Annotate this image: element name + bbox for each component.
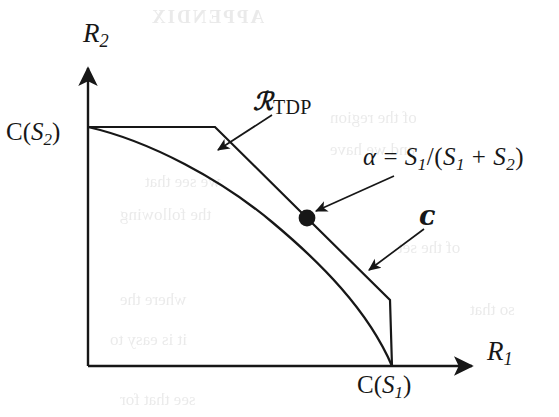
region-label-rtdp: ℛTDP: [253, 87, 312, 119]
x-axis-label-sub: 1: [504, 349, 513, 369]
region-boundary-rtdp: [88, 127, 392, 366]
tangency-point-marker: [299, 210, 316, 227]
figure-canvas: [0, 0, 559, 417]
alpha-term2-sub: 2: [506, 155, 515, 174]
arrow-to-curve-c: [369, 229, 424, 270]
region-label-subscript: TDP: [273, 96, 312, 118]
alpha-symbol: α: [363, 143, 377, 170]
c-s2-prefix: C(: [6, 118, 31, 145]
arrow-to-rtdp: [218, 115, 272, 150]
alpha-term1-sub: 1: [456, 155, 465, 174]
capacity-curve-c: [88, 127, 392, 366]
x-axis-label: R1: [487, 336, 513, 370]
alpha-plus-sign: +: [472, 143, 487, 170]
arrow-to-alpha-point: [316, 176, 394, 211]
c-s1-base: S: [382, 371, 395, 398]
alpha-term2-base: S: [493, 143, 506, 170]
x-axis-label-base: R: [487, 336, 504, 366]
c-s1-sub: 1: [395, 383, 404, 402]
y-axis-label: R2: [83, 18, 109, 52]
x-intercept-label-c-s1: C(S1): [357, 371, 411, 403]
alpha-numerator-sub: 1: [418, 155, 427, 174]
alpha-term1-base: S: [443, 143, 456, 170]
c-s2-suffix: ): [52, 118, 60, 145]
script-r-glyph: ℛ: [253, 87, 273, 116]
c-s2-sub: 2: [44, 130, 53, 149]
alpha-equals-sign: =: [383, 143, 398, 170]
figure-root: APPENDIX of the region and we have we se…: [0, 0, 559, 417]
y-axis-label-sub: 2: [100, 31, 109, 51]
y-intercept-label-c-s2: C(S2): [6, 118, 60, 150]
y-axis-label-base: R: [83, 18, 100, 48]
c-s2-base: S: [31, 118, 44, 145]
alpha-numerator-base: S: [405, 143, 418, 170]
c-s1-prefix: C(: [357, 371, 382, 398]
annotation-arrows: [218, 115, 424, 270]
alpha-open-paren: (: [434, 143, 443, 170]
curve-label-c: ᴄ: [419, 200, 435, 231]
c-s1-suffix: ): [403, 371, 411, 398]
alpha-equation-label: α = S1/(S1 + S2): [363, 143, 524, 175]
alpha-close-paren: ): [515, 143, 524, 170]
